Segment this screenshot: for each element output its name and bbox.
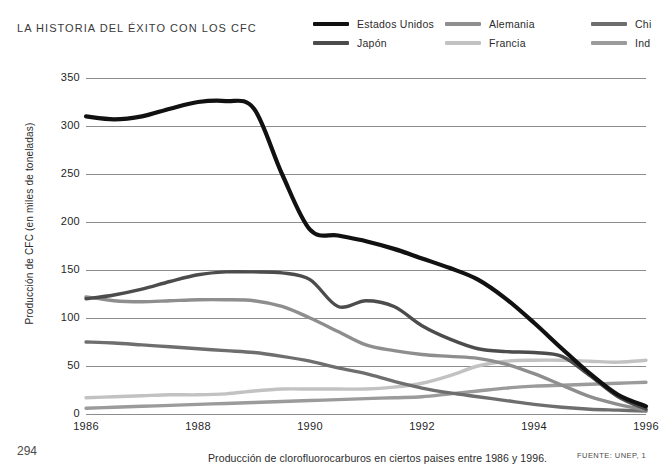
y-axis-tick-label: 0 — [20, 407, 80, 419]
gridline — [86, 414, 646, 415]
series-line — [86, 360, 646, 398]
x-axis-tick-label: 1994 — [504, 420, 564, 432]
page-number: 294 — [17, 444, 37, 458]
x-axis-tick-label: 1986 — [56, 420, 116, 432]
chart-caption: Producción de clorofluorocarburos en cie… — [208, 452, 547, 464]
legend-swatch-icon — [445, 41, 481, 45]
legend-item: Ind — [591, 33, 650, 48]
legend-swatch-icon — [313, 22, 349, 26]
y-axis-tick-label: 50 — [20, 359, 80, 371]
legend-item: Japón — [313, 33, 387, 48]
series-lines — [86, 78, 646, 414]
legend-swatch-icon — [313, 41, 349, 45]
y-axis-tick-label: 150 — [20, 263, 80, 275]
x-axis-tick-label: 1990 — [280, 420, 340, 432]
y-axis-tick-label: 250 — [20, 167, 80, 179]
chart-legend: Estados UnidosJapónAlemaniaFranciaChiInd — [313, 14, 663, 50]
legend-swatch-icon — [591, 22, 627, 26]
legend-item: Alemania — [445, 14, 535, 29]
y-axis-tick-label: 300 — [20, 119, 80, 131]
plot-area: 050100150200250300350 198619881990199219… — [86, 78, 646, 414]
legend-label: Estados Unidos — [357, 18, 434, 30]
legend-label: Japón — [357, 37, 387, 49]
legend-label: Chi — [635, 18, 652, 30]
x-axis-tick-label: 1992 — [392, 420, 452, 432]
legend-label: Alemania — [489, 18, 535, 30]
legend-swatch-icon — [445, 22, 481, 26]
x-axis-tick-label: 1988 — [168, 420, 228, 432]
series-line — [86, 342, 646, 411]
source-credit: FUENTE: UNEP, 1 — [577, 451, 646, 460]
legend-label: Ind — [635, 37, 650, 49]
legend-swatch-icon — [591, 41, 627, 45]
y-axis-tick-label: 350 — [20, 71, 80, 83]
legend-item: Estados Unidos — [313, 14, 434, 29]
legend-label: Francia — [489, 37, 526, 49]
y-axis-tick-label: 100 — [20, 311, 80, 323]
page-title: LA HISTORIA DEL ÉXITO CON LOS CFC — [17, 22, 257, 34]
x-axis-tick-label: 1996 — [616, 420, 663, 432]
y-axis-tick-label: 200 — [20, 215, 80, 227]
legend-item: Francia — [445, 33, 526, 48]
legend-item: Chi — [591, 14, 652, 29]
